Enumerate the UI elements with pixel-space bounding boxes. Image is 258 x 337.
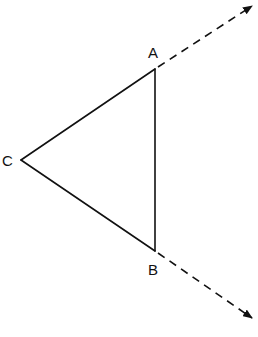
ray-extension-b xyxy=(158,253,252,318)
vertex-label-a: A xyxy=(148,44,158,61)
vertex-label-c: C xyxy=(2,152,13,169)
vertex-label-b: B xyxy=(148,261,158,278)
segment-cb xyxy=(21,160,155,251)
triangle-diagram: A B C xyxy=(0,0,258,337)
ray-extension-a xyxy=(158,6,252,67)
segment-ca xyxy=(21,69,155,160)
